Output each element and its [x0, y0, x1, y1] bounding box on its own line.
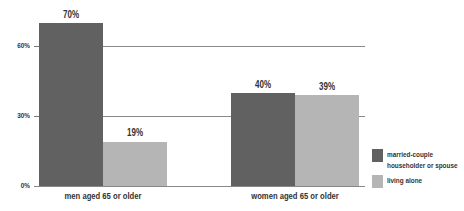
legend-label-line1: living alone [387, 175, 422, 186]
value-label-women-married: 40% [237, 79, 288, 90]
legend-label-married: married-couple householder or spouse [387, 149, 457, 171]
bar-men-alone [103, 142, 167, 186]
legend-label-alone: living alone [387, 175, 422, 186]
legend: married-couple householder or spouse liv… [372, 149, 464, 192]
value-label-women-alone: 39% [301, 81, 352, 92]
bar-men-married [39, 23, 103, 186]
category-label-women: women aged 65 or older [227, 191, 363, 201]
baseline-0 [34, 186, 365, 187]
gridline-60-span [103, 46, 365, 47]
y-tick-label-60: 60% [6, 41, 30, 50]
bar-women-married [231, 93, 295, 186]
gridline-30-right [359, 116, 365, 117]
legend-item-alone: living alone [372, 175, 464, 188]
bar-women-alone [295, 95, 359, 186]
legend-swatch-alone [372, 175, 383, 188]
category-label-men: men aged 65 or older [35, 191, 171, 201]
value-label-men-married: 70% [45, 9, 96, 20]
legend-swatch-married [372, 149, 383, 162]
y-tick-label-30: 30% [6, 111, 30, 120]
y-tick-label-0: 0% [6, 181, 30, 190]
bar-chart: 60% 30% 0% 70% 19% 40% 39% men aged 65 o… [0, 0, 464, 211]
gridline-30-left [103, 116, 231, 117]
value-label-men-alone: 19% [109, 127, 160, 138]
legend-item-married: married-couple householder or spouse [372, 149, 464, 171]
legend-label-line1: married-couple [387, 149, 457, 160]
legend-label-line2: householder or spouse [387, 160, 457, 171]
